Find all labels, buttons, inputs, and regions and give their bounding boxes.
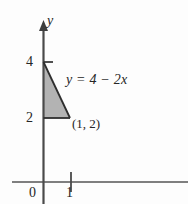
origin-label: 0 <box>29 186 36 200</box>
y-tick-label-2: 2 <box>26 111 33 125</box>
y-tick-label-4: 4 <box>26 55 33 69</box>
line-equation-label: y = 4 − 2x <box>66 73 127 87</box>
graph-canvas <box>0 0 188 204</box>
graph-figure: y 4 2 0 1 y = 4 − 2x (1, 2) <box>0 0 188 204</box>
point-coordinate-label: (1, 2) <box>72 117 100 130</box>
x-tick-label-1: 1 <box>66 186 73 200</box>
y-axis-label: y <box>47 14 53 28</box>
